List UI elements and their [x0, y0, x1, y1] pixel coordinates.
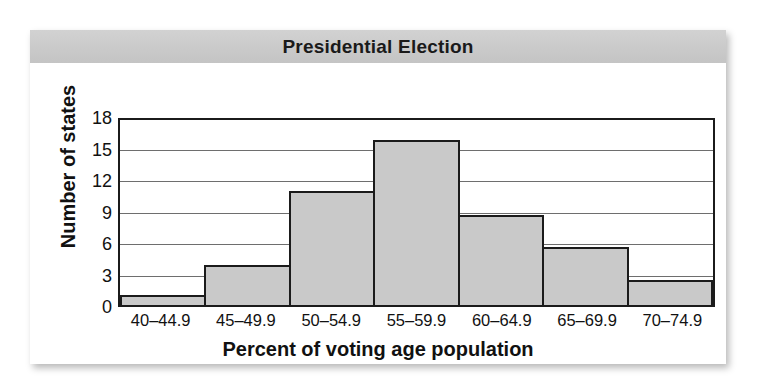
- y-tick-label: 3: [70, 267, 112, 285]
- x-tick-label: 40–44.9: [118, 311, 203, 330]
- y-tick-label: 0: [70, 298, 112, 316]
- y-tick-label: 12: [70, 172, 112, 190]
- y-tick-label: 15: [70, 141, 112, 159]
- bar: [458, 215, 544, 305]
- x-tick-label: 60–64.9: [459, 311, 544, 330]
- chart-title: Presidential Election: [282, 36, 473, 58]
- x-tick-label: 50–54.9: [289, 311, 374, 330]
- y-axis-tick-labels: 0369121518: [70, 118, 112, 307]
- chart-title-band: Presidential Election: [30, 30, 726, 63]
- bar: [289, 191, 375, 305]
- x-tick-label: 55–59.9: [374, 311, 459, 330]
- x-tick-label: 65–69.9: [544, 311, 629, 330]
- x-axis-tick-labels: 40–44.945–49.950–54.955–59.960–64.965–69…: [118, 311, 715, 330]
- plot-area: [118, 118, 715, 307]
- bar: [542, 247, 628, 305]
- bar: [627, 280, 713, 305]
- chart-body: Number of states 0369121518 40–44.945–49…: [30, 63, 726, 364]
- y-tick-label: 6: [70, 235, 112, 253]
- x-tick-label: 45–49.9: [203, 311, 288, 330]
- x-tick-label: 70–74.9: [630, 311, 715, 330]
- bars-layer: [120, 120, 713, 305]
- figure-card: Presidential Election Number of states 0…: [30, 30, 726, 364]
- x-axis-title: Percent of voting age population: [30, 338, 726, 361]
- y-tick-label: 9: [70, 204, 112, 222]
- bar: [120, 295, 206, 306]
- y-tick-label: 18: [70, 109, 112, 127]
- bar: [204, 265, 290, 305]
- bar: [373, 140, 459, 305]
